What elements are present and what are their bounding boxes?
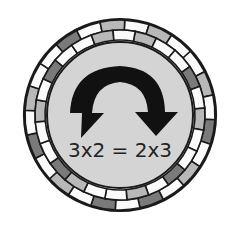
equation-label: 3x2 = 2x3	[68, 138, 172, 162]
inner-ring-tile	[35, 100, 46, 122]
inner-ring-tile	[113, 30, 135, 41]
inner-ring-tile	[194, 108, 205, 130]
commutative-badge: 3x2 = 2x3	[0, 0, 238, 230]
inner-ring-tile	[105, 189, 127, 200]
